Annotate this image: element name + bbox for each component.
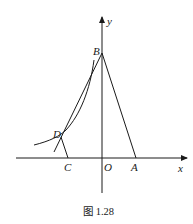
geometry-figure: y x B D C O A 图 1.28 [0,0,193,224]
figure-caption: 图 1.28 [83,206,114,217]
segment-cd [61,137,68,158]
label-y: y [106,15,112,27]
label-c: C [64,161,72,173]
label-a: A [130,161,138,173]
label-b: B [93,45,100,57]
label-x: x [177,162,183,174]
label-o: O [104,161,112,173]
segment-ba [102,53,136,158]
label-d: D [52,128,61,140]
